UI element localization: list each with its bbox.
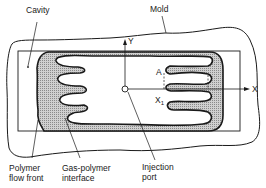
port-line1: Injection <box>142 162 174 172</box>
injection-port-label: Injection port <box>142 162 174 182</box>
flow-front-label: Polymer flow front <box>9 163 44 183</box>
interface-line1: Gas-polymer <box>62 163 111 173</box>
cavity-label: Cavity <box>26 5 50 15</box>
diagram-canvas <box>0 0 266 188</box>
injection-port-icon <box>122 86 128 92</box>
interface-line2: interface <box>62 173 111 183</box>
y-axis-arrow-icon <box>123 39 127 45</box>
x1-label: X1 <box>155 95 164 108</box>
point-a-label: A <box>156 67 162 77</box>
interface-label: Gas-polymer interface <box>62 163 111 183</box>
x-axis-arrow-icon <box>244 87 250 91</box>
mold-leader <box>162 16 166 33</box>
mold-label: Mold <box>150 4 168 14</box>
port-line2: port <box>142 172 174 182</box>
x1-subscript: 1 <box>161 100 164 106</box>
x-axis-label: X <box>252 84 258 94</box>
flow-front-line1: Polymer <box>9 163 44 173</box>
flow-front-line2: flow front <box>9 173 44 183</box>
y-axis-label: Y <box>128 36 134 46</box>
